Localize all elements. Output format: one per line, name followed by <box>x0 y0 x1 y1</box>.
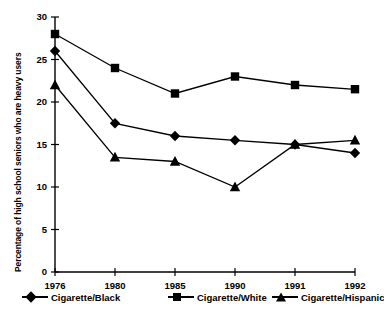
y-axis-tick-label: 10 <box>25 182 47 192</box>
data-point-marker <box>351 85 359 93</box>
legend-line <box>22 296 48 298</box>
legend-label: Cigarette/Hispanic <box>301 292 384 303</box>
legend-label: Cigarette/White <box>197 292 267 303</box>
y-axis-tick-label: 30 <box>25 12 47 22</box>
y-axis-tick-label: 20 <box>25 97 47 107</box>
legend-square-marker-icon <box>173 293 181 301</box>
y-axis-tick-label: 0 <box>25 267 47 277</box>
data-point-marker <box>291 81 299 89</box>
chart-legend: Cigarette/BlackCigarette/WhiteCigarette/… <box>0 288 381 310</box>
y-axis-tick-label: 15 <box>25 140 47 150</box>
plot-area <box>0 0 381 288</box>
data-point-marker <box>350 148 360 158</box>
legend-diamond-marker-icon <box>25 291 36 302</box>
y-axis-tick-label: 5 <box>25 225 47 235</box>
legend-line <box>168 296 194 298</box>
series-cigarette-hispanic <box>50 80 360 192</box>
series-cigarette-white <box>51 30 359 98</box>
data-point-marker <box>230 135 240 145</box>
y-axis-tick-label: 25 <box>25 55 47 65</box>
legend-item-cigarette-white[interactable]: Cigarette/White <box>168 288 267 306</box>
legend-label: Cigarette/Black <box>51 292 120 303</box>
legend-triangle-marker-icon <box>276 293 286 302</box>
data-point-marker <box>111 64 119 72</box>
series-cigarette-black <box>50 46 360 158</box>
data-point-marker <box>171 89 179 97</box>
data-point-marker <box>231 72 239 80</box>
legend-line <box>272 296 298 298</box>
legend-item-cigarette-hispanic[interactable]: Cigarette/Hispanic <box>272 288 384 306</box>
data-point-marker <box>50 80 60 90</box>
legend-item-cigarette-black[interactable]: Cigarette/Black <box>22 288 120 306</box>
data-point-marker <box>51 30 59 38</box>
data-point-marker <box>350 135 360 145</box>
data-point-marker <box>230 182 240 192</box>
data-point-marker <box>170 131 180 141</box>
